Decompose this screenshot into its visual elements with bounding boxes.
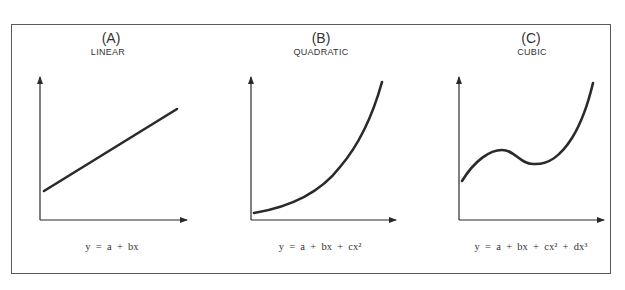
panel-c-cubic-curve <box>462 83 593 181</box>
panel-a-plot <box>40 77 187 220</box>
panel-c-plot <box>459 77 604 220</box>
plots-canvas <box>0 0 625 290</box>
panel-b-quadratic-curve <box>254 82 382 213</box>
panel-a-linear-curve <box>44 109 177 191</box>
panel-b-plot <box>251 77 396 220</box>
